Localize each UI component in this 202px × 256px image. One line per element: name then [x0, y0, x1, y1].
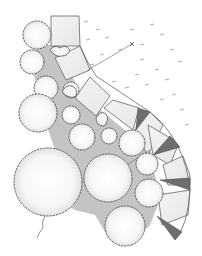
tree-canopy [101, 128, 117, 144]
tree-canopy [119, 130, 145, 156]
garden-plan: Hand-drawn garden plan: curved stepping-… [0, 0, 202, 256]
tree-canopy [14, 148, 82, 216]
tree-canopy [19, 94, 57, 132]
tree-canopy [136, 153, 158, 175]
tree-canopy [20, 50, 44, 74]
x-marker [130, 42, 134, 46]
tree-canopy [23, 21, 51, 49]
tree-canopy [69, 124, 95, 150]
tree-canopy [62, 106, 80, 124]
tree-canopy [105, 206, 145, 246]
plan-drawing [0, 0, 202, 256]
ground-edge-line [37, 216, 45, 238]
tree-canopy [84, 154, 132, 202]
tree-canopy [135, 179, 163, 207]
